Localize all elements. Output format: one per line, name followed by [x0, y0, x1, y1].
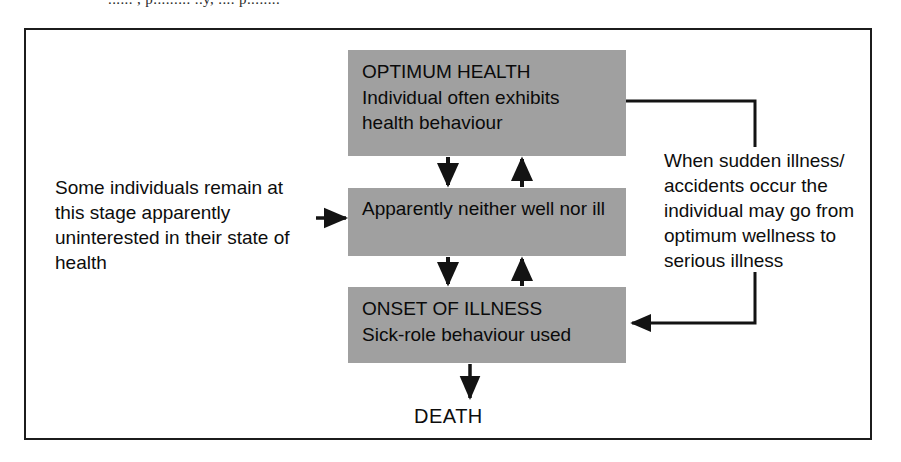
scanned-page-cut-text: ...... , p......... ..y, .... p........ [108, 0, 528, 7]
annotation-right-note: When sudden illness/ accidents occur the… [664, 148, 864, 273]
node-optimum-health: OPTIMUM HEALTH Individual often exhibits… [348, 50, 626, 156]
node-onset-of-illness: ONSET OF ILLNESS Sick-role behaviour use… [348, 287, 626, 363]
node-neither-well-nor-ill: Apparently neither well nor ill [348, 188, 626, 256]
node-optimum-health-title: OPTIMUM HEALTH [362, 59, 612, 85]
terminal-death-label: DEATH [414, 404, 483, 428]
node-optimum-health-body: Individual often exhibits health behavio… [362, 85, 612, 135]
annotation-left-note: Some individuals remain at this stage ap… [55, 175, 317, 275]
node-neither-well-nor-ill-body: Apparently neither well nor ill [362, 196, 612, 221]
node-onset-of-illness-title: ONSET OF ILLNESS [362, 296, 612, 322]
node-onset-of-illness-body: Sick-role behaviour used [362, 322, 612, 347]
